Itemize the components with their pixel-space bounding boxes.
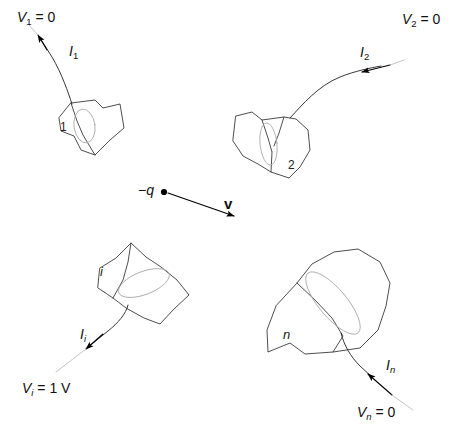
electrode-2-aperture	[258, 122, 279, 166]
current-label-2: I2	[360, 45, 369, 62]
figure-canvas: V1 = 0 I1 1 V2 = 0 I2 2 −q v i Ii Vi = 1…	[0, 0, 456, 435]
potential-label-1: V1 = 0	[17, 10, 55, 27]
electrode-i-aperture	[115, 263, 174, 304]
current-label-i: Ii	[80, 327, 86, 344]
electrode-n-aperture	[297, 264, 369, 342]
electrode-number-n: n	[283, 327, 290, 342]
electrode-2-potential-leader	[390, 60, 404, 65]
electrode-n-lead-wire	[341, 333, 372, 377]
charge-dot	[161, 189, 167, 195]
potential-label-2: V2 = 0	[402, 12, 440, 29]
electrode-i-body	[98, 243, 189, 324]
electrode-i-potential-leader	[56, 349, 86, 372]
charge-label: −q	[138, 183, 154, 197]
electrode-number-2: 2	[288, 158, 295, 172]
electrode-n-current-arrow	[368, 374, 392, 395]
potential-label-n: Vn = 0	[357, 405, 395, 422]
electrode-2-lead-wire	[290, 66, 381, 118]
electrode-number-i: i	[100, 264, 103, 279]
electrode-2-body	[233, 112, 310, 178]
electrode-1-lead-wire	[40, 38, 72, 104]
electrode-i-lead-wire	[88, 305, 128, 347]
electrode-number-1: 1	[60, 120, 67, 134]
velocity-label: v	[224, 196, 232, 211]
current-label-n: In	[386, 358, 395, 375]
electrode-i-current-arrow	[86, 334, 103, 349]
potential-label-i: Vi = 1 V	[22, 381, 70, 398]
current-label-1: I1	[69, 44, 78, 61]
electrode-2-current-arrow	[362, 65, 390, 72]
electrode-1-body	[59, 100, 124, 155]
electrode-1-current-arrow	[38, 35, 47, 50]
